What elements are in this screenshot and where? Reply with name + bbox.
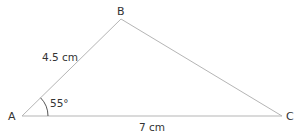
side-ab [22,19,121,116]
side-label-ac: 7 cm [139,121,165,133]
triangle-svg: A B C 4.5 cm 7 cm 55° [0,0,304,140]
angle-arc-a [41,98,48,116]
vertex-label-b: B [117,5,125,18]
triangle-diagram: A B C 4.5 cm 7 cm 55° [0,0,304,140]
side-label-ab: 4.5 cm [42,51,78,63]
angle-label-a: 55° [50,97,69,109]
vertex-label-a: A [8,110,16,123]
side-bc [121,19,282,116]
vertex-label-c: C [286,110,294,123]
